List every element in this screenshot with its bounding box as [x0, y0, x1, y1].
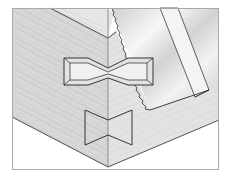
wood-joint-illustration	[0, 0, 228, 182]
box-left-face	[12, 8, 108, 167]
